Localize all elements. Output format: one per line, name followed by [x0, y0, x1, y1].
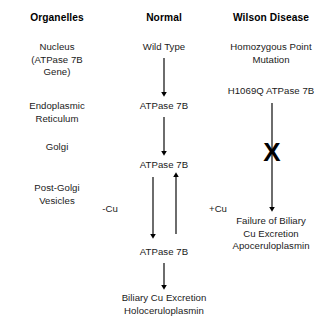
- column-header-organelles: Organelles: [0, 12, 114, 25]
- organelle-endoplasmic-reticulum: Endoplasmic Reticulum: [0, 100, 114, 125]
- pathway-diagram: Organelles Normal Wilson Disease Nucleus…: [0, 0, 336, 326]
- column-header-normal: Normal: [110, 12, 218, 25]
- organelle-golgi: Golgi: [0, 141, 114, 154]
- column-header-wilson-disease: Wilson Disease: [206, 12, 336, 25]
- normal-node-biliary-cu-excretion: Biliary Cu Excretion Holoceruloplasmin: [110, 292, 218, 317]
- normal-node-wild-type: Wild Type: [110, 41, 218, 54]
- normal-node-atpase-7b-vesicles: ATPase 7B: [110, 246, 218, 259]
- wilson-node-homozygous-point-mutation: Homozygous Point Mutation: [206, 41, 336, 66]
- organelle-nucleus: Nucleus (ATPase 7B Gene): [0, 41, 114, 79]
- flux-label-plus-cu: +Cu: [200, 203, 236, 214]
- flux-label-minus-cu: -Cu: [92, 203, 128, 214]
- wilson-node-failure-of-biliary-cu-excretion: Failure of Biliary Cu Excretion Apocerul…: [206, 215, 336, 253]
- normal-node-atpase-7b-golgi: ATPase 7B: [110, 159, 218, 172]
- blocked-pathway-x-icon: X: [257, 139, 287, 165]
- wilson-node-h1069q-atpase-7b: H1069Q ATPase 7B: [206, 85, 336, 98]
- normal-node-atpase-7b-er: ATPase 7B: [110, 100, 218, 113]
